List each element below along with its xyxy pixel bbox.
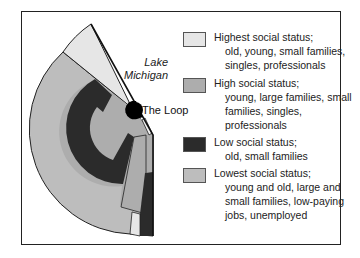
legend-desc: young, large families, small families, s… [214,90,354,132]
lake-label-line1: Lake [124,56,168,69]
highest-status-strip [130,212,140,236]
lake-label-line2: Michigan [124,69,168,82]
legend-desc: young and old, large and small families,… [214,180,354,222]
legend-desc: old, young, small families, singles, pro… [214,44,354,72]
legend-swatch-low [183,137,206,152]
legend-title: Low social status; [214,135,354,149]
legend-swatch-lowest [183,168,206,183]
legend-swatch-high [183,78,206,93]
the-loop-label: The Loop [142,104,188,116]
lake-michigan-label: Lake Michigan [124,56,168,82]
loop-circle [127,102,143,118]
legend-title: High social status; [214,76,354,90]
legend-swatch-highest [183,32,206,47]
legend-title: Lowest social status; [214,166,354,180]
legend-desc: old, small families [214,149,354,163]
legend-title: Highest social status; [214,30,354,44]
